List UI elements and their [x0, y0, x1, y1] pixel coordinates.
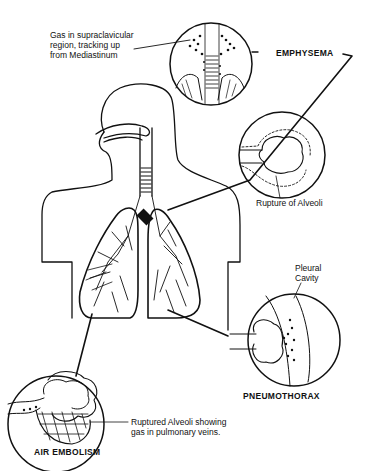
pneumothorax-title: PNEUMOTHORAX: [243, 391, 320, 401]
body-silhouette: [42, 84, 240, 330]
emphysema-inset: [134, 23, 258, 105]
air-embolism-note: Ruptured Alveoli showing gas in pulmonar…: [131, 417, 226, 437]
lungs: [80, 196, 201, 318]
emphysema-title: EMPHYSEMA: [276, 48, 334, 58]
pneumothorax-inset: [230, 283, 340, 386]
air-embolism-title: AIR EMBOLISM: [34, 447, 100, 457]
emphysema-note: Gas in supraclavicular region, tracking …: [50, 30, 134, 60]
alveoli-note: Rupture of Alveoli: [256, 198, 323, 208]
alveoli-inset: [239, 112, 325, 198]
pleural-cavity-note: Pleural Cavity: [295, 263, 321, 283]
